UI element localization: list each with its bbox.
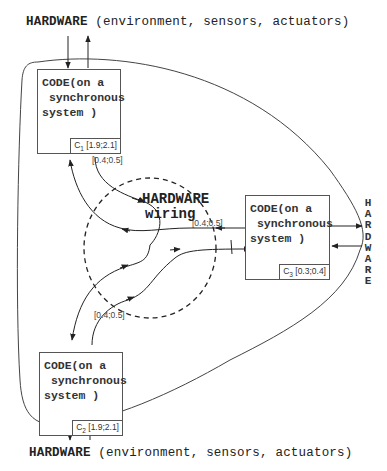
bottom-hardware-description: (environment, sensors, actuators) (91, 446, 353, 460)
code-box-c3-text: CODE(on a synchronous system ) (250, 201, 333, 246)
clock-interval: [1.9;2.1] (84, 140, 117, 150)
code-box-c1: CODE(on a synchronous system ) C1 [1.9;2… (37, 69, 121, 154)
top-hardware-word: HARDWARE (26, 15, 88, 29)
right-hardware-letter: E (363, 276, 373, 287)
right-hardware-letter: R (363, 220, 373, 231)
bottom-hardware-word: HARDWARE (29, 446, 91, 460)
clock-tag-c2: C2 [1.9;2.1] (72, 420, 123, 436)
clock-tag-c1: C1 [1.9;2.1] (70, 138, 121, 154)
wiring-label-line1: HARDWARE (142, 192, 209, 207)
code-box-c1-text: CODE(on a synchronous system ) (42, 75, 125, 120)
top-hardware-description: (environment, sensors, actuators) (88, 15, 350, 29)
delay-interval-c1-out: [0.4;0.5] (92, 155, 123, 165)
bottom-hardware-label: HARDWARE (environment, sensors, actuator… (29, 446, 352, 460)
right-hardware-label: H A R D W A R E (363, 198, 373, 288)
code-box-c3: CODE(on a synchronous system ) C3 [0.3;0… (245, 195, 330, 280)
clock-interval: [0.3;0.4] (293, 266, 326, 276)
clock-tag-c3: C3 [0.3;0.4] (279, 264, 330, 280)
code-box-c2-text: CODE(on a synchronous system ) (44, 358, 127, 403)
top-hardware-label: HARDWARE (environment, sensors, actuator… (26, 15, 349, 29)
delay-interval-c2-out: [0.4;0.5] (94, 310, 125, 320)
code-box-c2: CODE(on a synchronous system ) C2 [1.9;2… (39, 352, 123, 436)
delay-interval-c3-in: [0.4;0.5] (192, 218, 223, 228)
diagram-canvas: HARDWARE (environment, sensors, actuator… (0, 0, 387, 471)
clock-interval: [1.9;2.1] (86, 422, 119, 432)
